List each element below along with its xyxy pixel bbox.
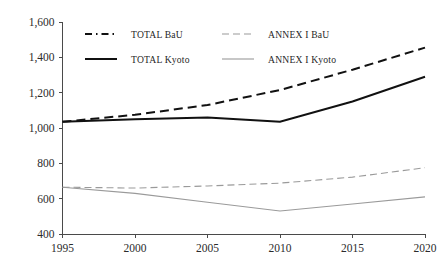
chart-background	[0, 0, 448, 268]
x-tick-label: 2005	[196, 242, 219, 254]
legend-label-total-bau: TOTAL BaU	[131, 29, 183, 40]
y-tick-label: 1,400	[29, 51, 55, 64]
y-tick-label: 1,000	[29, 122, 55, 135]
y-tick-label: 1,600	[29, 16, 55, 29]
y-tick-label: 800	[37, 157, 55, 169]
chart-figure: 4006008001,0001,2001,4001,600 1995200020…	[0, 0, 448, 268]
y-tick-label: 600	[37, 193, 55, 205]
x-tick-label: 2010	[269, 242, 292, 254]
x-tick-label: 2020	[414, 242, 437, 254]
legend-label-annex-i-bau: ANNEX I BaU	[268, 29, 329, 40]
y-tick-label: 1,200	[29, 87, 55, 100]
legend-label-total-kyoto: TOTAL Kyoto	[131, 54, 190, 65]
y-tick-label: 400	[37, 228, 55, 240]
x-tick-label: 2015	[341, 242, 364, 254]
legend-label-annex-i-kyoto: ANNEX I Kyoto	[268, 54, 336, 65]
line-chart: 4006008001,0001,2001,4001,600 1995200020…	[0, 0, 448, 268]
x-tick-label: 1995	[51, 242, 74, 254]
x-tick-label: 2000	[124, 242, 147, 254]
